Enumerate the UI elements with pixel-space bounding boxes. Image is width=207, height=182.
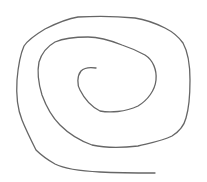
- spiral-stroke: [17, 16, 190, 173]
- spiral-drawing: [0, 0, 207, 182]
- drawing-canvas: [0, 0, 207, 182]
